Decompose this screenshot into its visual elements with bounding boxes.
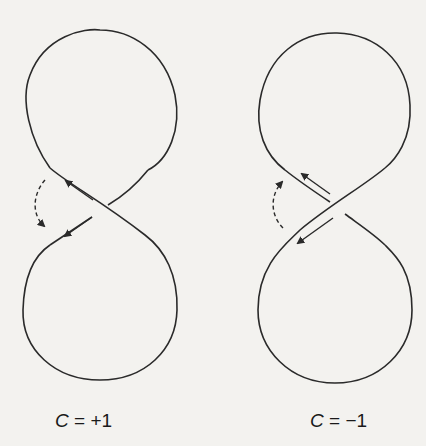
- left-dashed-rotation-arrow: [35, 180, 45, 226]
- left-under-upper: [108, 170, 148, 205]
- left-arrow-up: [66, 181, 93, 200]
- right-upper-loop: [259, 33, 410, 170]
- left-caption: C = +1: [55, 410, 112, 432]
- right-arrow-up: [302, 174, 330, 194]
- left-caption-variable: C: [55, 410, 69, 431]
- crossing-diagram: [0, 0, 426, 446]
- right-figure-eight: [258, 33, 412, 383]
- right-over-diagonal: [258, 168, 412, 383]
- right-arrow-down: [298, 218, 333, 243]
- left-figure-eight: [23, 30, 177, 380]
- right-under-upper: [285, 170, 330, 202]
- left-caption-value: = +1: [69, 410, 112, 431]
- right-dashed-rotation-arrow: [273, 182, 283, 228]
- left-over-diagonal: [23, 168, 177, 380]
- right-under-lower: [345, 214, 385, 245]
- left-arrow-down: [65, 217, 92, 236]
- left-over-strand: [26, 30, 177, 170]
- right-caption-variable: C: [310, 410, 324, 431]
- right-caption: C = −1: [310, 410, 367, 432]
- right-caption-value: = −1: [324, 410, 367, 431]
- left-arrows: [35, 180, 93, 236]
